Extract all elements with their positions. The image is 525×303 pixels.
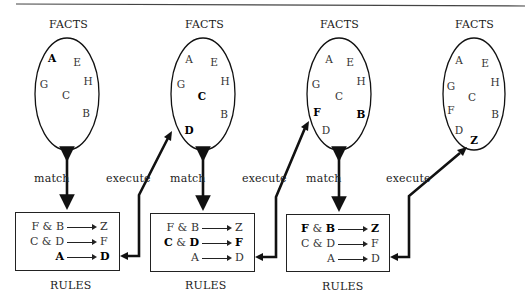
fact-a: A [185, 53, 193, 65]
rules-title-1: RULES [50, 279, 91, 292]
rule-condition: C & D [157, 236, 199, 249]
implies-arrow-icon [202, 254, 232, 262]
fact-e: E [346, 56, 354, 68]
rule-row: F & BZ [293, 222, 379, 235]
fact-e: E [73, 56, 81, 68]
facts-title-1: FACTS [49, 18, 88, 31]
rules-title-2: RULES [185, 279, 226, 292]
rule-row: C & DF [157, 236, 243, 249]
rule-row: AD [293, 252, 380, 265]
implies-arrow-icon [202, 224, 232, 232]
rule-conclusion: Z [100, 220, 108, 233]
rule-conclusion: F [371, 237, 379, 250]
fact-c: C [62, 89, 70, 101]
rule-condition: F & B [157, 221, 199, 234]
fact-c: C [468, 91, 476, 103]
match-label-3: match [306, 172, 342, 185]
fact-g: G [177, 78, 185, 90]
rule-row: AD [157, 251, 244, 264]
execute-label-1: execute [106, 172, 151, 185]
fact-g: G [40, 78, 48, 90]
rule-condition: C & D [22, 235, 64, 248]
implies-arrow-icon [202, 239, 232, 247]
rule-row: F & BZ [157, 221, 243, 234]
fact-h: H [220, 75, 229, 87]
fact-h: H [356, 75, 365, 87]
execute-arrow-1-head-box [120, 252, 128, 260]
rule-conclusion: D [100, 250, 110, 263]
implies-arrow-icon [338, 225, 368, 233]
execute-arrow-3-head-box [390, 253, 398, 261]
rule-conclusion: D [235, 251, 244, 264]
rule-conclusion: D [371, 252, 380, 265]
facts-title-2: FACTS [185, 18, 224, 31]
execute-arrow-3-path [396, 153, 460, 257]
rule-condition: C & D [293, 237, 335, 250]
fact-c: C [198, 90, 206, 102]
fact-z: Z [470, 134, 478, 146]
fact-g: G [312, 78, 320, 90]
execute-label-2: execute [242, 172, 287, 185]
fact-a: A [455, 54, 463, 66]
fact-b: B [220, 108, 228, 120]
fact-g: G [447, 80, 455, 92]
fact-a: A [325, 53, 333, 65]
implies-arrow-icon [67, 223, 97, 231]
rule-row: C & DF [293, 237, 379, 250]
rule-conclusion: Z [371, 222, 379, 235]
implies-arrow-icon [67, 253, 97, 261]
rule-system-diagram: FACTS FACTS FACTS FACTS AEHGCB AEHGCBD A… [0, 0, 525, 303]
rule-conclusion: F [100, 235, 108, 248]
header-rule [16, 4, 525, 6]
rule-condition: A [293, 252, 335, 265]
fact-c: C [335, 90, 343, 102]
implies-arrow-icon [338, 240, 368, 248]
fact-b: B [82, 107, 90, 119]
fact-d: D [322, 124, 330, 136]
fact-d: D [455, 124, 463, 136]
rule-row: C & DF [22, 235, 108, 248]
fact-f: F [447, 104, 454, 116]
implies-arrow-icon [338, 255, 368, 263]
fact-f: F [313, 106, 320, 118]
rules-box-3: F & BZC & DFAD [286, 214, 390, 272]
rule-condition: A [157, 251, 199, 264]
fact-e: E [481, 57, 489, 69]
rule-row: AD [22, 250, 110, 263]
rules-box-1: F & BZC & DFAD [15, 212, 120, 271]
rules-box-2: F & BZC & DFAD [150, 213, 255, 272]
rules-title-3: RULES [322, 280, 363, 293]
fact-h: H [490, 76, 499, 88]
rule-condition: F & B [22, 220, 64, 233]
fact-b: B [491, 108, 499, 120]
fact-e: E [210, 56, 218, 68]
fact-d: D [184, 124, 193, 136]
facts-title-3: FACTS [320, 18, 359, 31]
rule-conclusion: F [235, 236, 243, 249]
execute-label-3: execute [386, 172, 431, 185]
rule-condition: A [22, 250, 64, 263]
rule-condition: F & B [293, 222, 335, 235]
implies-arrow-icon [67, 238, 97, 246]
fact-b: B [357, 108, 366, 120]
match-label-1: match [34, 172, 70, 185]
execute-arrow-2-head-box [255, 253, 263, 261]
rule-row: F & BZ [22, 220, 108, 233]
match-label-2: match [170, 172, 206, 185]
rule-conclusion: Z [235, 221, 243, 234]
fact-h: H [83, 75, 92, 87]
fact-a: A [48, 52, 56, 64]
facts-title-4: FACTS [455, 18, 494, 31]
